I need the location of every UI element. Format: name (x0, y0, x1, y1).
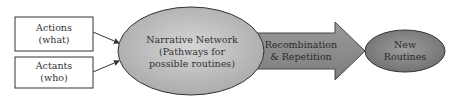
routines-line1: New (370, 39, 440, 51)
new-routines-label: New Routines (370, 39, 440, 63)
narrative-network-label: Narrative Network (Pathways for possible… (130, 34, 254, 70)
actants-text: Actants (15, 60, 93, 72)
actions-text: Actions (15, 22, 93, 34)
arrow-line1: Recombination (262, 39, 340, 51)
actions-label: Actions (what) (15, 22, 93, 46)
network-sub2: possible routines) (130, 58, 254, 70)
actants-subtext: (who) (15, 72, 93, 84)
routines-line2: Routines (370, 51, 440, 63)
actions-arrow (93, 32, 119, 43)
network-sub1: (Pathways for (130, 46, 254, 58)
actants-arrow (93, 61, 119, 72)
actions-subtext: (what) (15, 34, 93, 46)
recombination-label: Recombination & Repetition (262, 39, 340, 63)
network-title: Narrative Network (130, 34, 254, 46)
actants-label: Actants (who) (15, 60, 93, 84)
arrow-line2: & Repetition (262, 51, 340, 63)
